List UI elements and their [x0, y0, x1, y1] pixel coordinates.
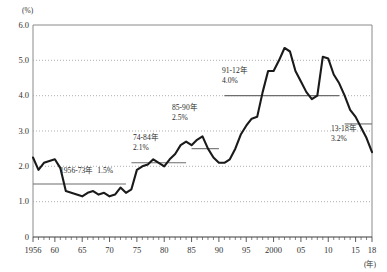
y-tick-label: 2.0 [2, 161, 29, 171]
annotation-period: 74-84年 [133, 133, 159, 142]
y-tick-label: 0 [2, 232, 29, 242]
gridlines [33, 60, 372, 201]
annotation-value: 4.0% [222, 76, 248, 86]
annotation-period: 91-12年 [222, 66, 248, 75]
annotation-period: 85-90年 [172, 103, 198, 112]
period-annotation: 85-90年2.5% [172, 103, 198, 122]
y-tick-label: 4.0 [2, 90, 29, 100]
annotation-value: 3.2% [331, 134, 357, 144]
period-annotation: 13-18年3.2% [331, 124, 357, 143]
period-annotation: 74-84年2.1% [133, 133, 159, 152]
y-tick-label: 5.0 [2, 55, 29, 65]
line-chart: (%) (年) 01.02.03.04.05.06.0 195660657075… [0, 0, 387, 272]
period-annotation: 91-12年4.0% [222, 66, 248, 85]
x-tick-label: 18 [352, 245, 387, 255]
y-tick-label: 6.0 [2, 20, 29, 30]
annotation-period: 13-18年 [331, 124, 357, 133]
x-axis-tick-marks [33, 237, 372, 242]
period-annotation: 1956-73年1.5% [60, 166, 113, 176]
y-tick-label: 1.0 [2, 196, 29, 206]
y-tick-label: 3.0 [2, 126, 29, 136]
annotation-value: 1.5% [97, 166, 113, 175]
annotation-value: 2.1% [133, 143, 159, 153]
annotation-period: 1956-73年 [60, 166, 93, 175]
annotation-value: 2.5% [172, 113, 198, 123]
chart-canvas [0, 0, 387, 272]
